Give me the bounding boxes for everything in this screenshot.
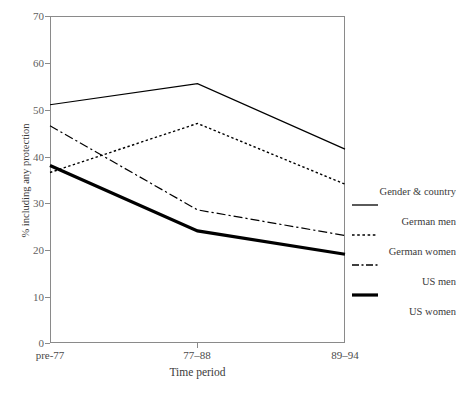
- x-tick-label: 89–94: [315, 349, 375, 361]
- legend-entry-german-men: German men: [352, 216, 456, 246]
- y-tick-label: 60: [14, 58, 44, 69]
- legend-sample-solid-thin: [352, 202, 378, 208]
- y-tick-mark: [45, 203, 50, 204]
- legend-entry-german-women: German women: [352, 246, 456, 276]
- legend-sample-solid-thick: [352, 292, 378, 298]
- y-tick-mark: [45, 297, 50, 298]
- legend-label-german-women: German women: [352, 246, 456, 258]
- legend-sample-dotted: [352, 232, 378, 238]
- y-tick-mark: [45, 110, 50, 111]
- y-tick-mark: [45, 157, 50, 158]
- plot-area-frame: [50, 16, 345, 343]
- legend-title-entry: Gender & country: [352, 186, 456, 216]
- legend-label-german-men: German men: [352, 216, 456, 228]
- x-tick-label: 77–88: [167, 349, 227, 361]
- y-tick-label: 70: [14, 11, 44, 22]
- legend-label-us-men: US men: [352, 276, 456, 288]
- line-chart-figure: 70 60 50 40 30 20 10 0 pre-77 77–88 89–9…: [0, 0, 456, 393]
- y-tick-label: 10: [14, 292, 44, 303]
- y-tick-mark: [45, 250, 50, 251]
- y-tick-label: 0: [14, 338, 44, 349]
- x-tick-label: pre-77: [20, 349, 80, 361]
- legend-sample-dash-dot: [352, 262, 378, 268]
- y-axis-title: % including any protection: [20, 101, 31, 261]
- x-axis-title: Time period: [0, 366, 395, 378]
- y-tick-mark: [45, 16, 50, 17]
- legend-label-us-women: US women: [352, 306, 456, 318]
- legend-entry-us-women: US women: [352, 306, 456, 336]
- y-tick-mark: [45, 63, 50, 64]
- legend-entry-us-men: US men: [352, 276, 456, 306]
- y-tick-mark: [45, 343, 50, 344]
- legend-title: Gender & country: [352, 186, 456, 198]
- x-tick-mark: [197, 343, 198, 348]
- chart-legend: Gender & country German men German women: [352, 186, 456, 336]
